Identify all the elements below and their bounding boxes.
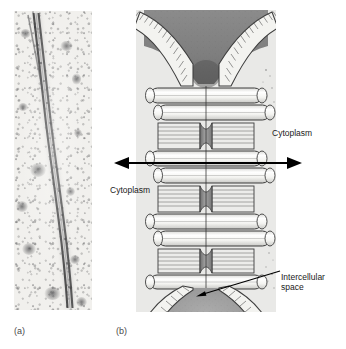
- caption-panel-a: (a): [14, 326, 25, 336]
- panel-a-electron-micrograph: [14, 11, 92, 310]
- top-wedge-shadow: [191, 60, 221, 88]
- label-intercellular-space-line1: Intercellular: [281, 272, 325, 282]
- label-intercellular-space: Intercellular space: [281, 272, 325, 292]
- label-cytoplasm-left: Cytoplasm: [110, 185, 150, 195]
- membrane-tube-row: [150, 88, 270, 120]
- gap-junction-schematic: [136, 10, 276, 312]
- caption-panel-b: (b): [116, 326, 127, 336]
- micrograph-vignette: [14, 11, 92, 310]
- membrane-tube-row: [150, 151, 270, 183]
- arrow-head-left: [114, 157, 129, 169]
- label-cytoplasm-right: Cytoplasm: [272, 128, 312, 138]
- membrane-tube-row: [150, 214, 270, 246]
- arrow-head-right: [287, 157, 302, 169]
- panel-b-schematic-diagram: [136, 10, 276, 312]
- label-intercellular-space-line2: space: [281, 282, 325, 292]
- figure-root: Cytoplasm Cytoplasm Intercellular space …: [0, 0, 346, 349]
